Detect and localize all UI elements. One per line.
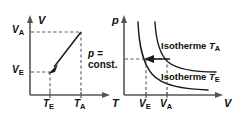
isobaric-condition-line1-text: p = bbox=[88, 48, 103, 59]
left-ytick-va: VA bbox=[12, 25, 24, 36]
isobaric-condition-line2: const. bbox=[88, 59, 117, 70]
right-xtick-va-var: V bbox=[160, 98, 167, 109]
left-x-axis-label: T bbox=[112, 98, 119, 110]
right-y-axis-label: p bbox=[112, 15, 119, 27]
right-panel-graphics bbox=[121, 15, 223, 98]
left-y-axis-arrowhead bbox=[27, 15, 33, 23]
isotherm-te-label-sub: E bbox=[215, 75, 220, 84]
right-y-axis-arrowhead bbox=[121, 15, 127, 23]
left-xtick-ta-label: TA bbox=[74, 99, 86, 110]
right-x-axis-label: V bbox=[224, 98, 231, 110]
left-xtick-te-label: TE bbox=[43, 99, 54, 110]
isobaric-condition-line1: p = bbox=[88, 48, 117, 59]
isotherm-te-label-var: T bbox=[209, 71, 215, 82]
isotherm-te-label-text: Isotherme bbox=[161, 71, 206, 82]
isotherm-te-label: Isotherme TE bbox=[161, 72, 220, 82]
left-ytick-ve-var: V bbox=[12, 64, 19, 75]
left-ytick-va-var: V bbox=[12, 24, 19, 35]
right-x-axis-arrowhead bbox=[215, 92, 223, 98]
right-xtick-va-sub: A bbox=[167, 102, 172, 111]
right-xtick-ve-sub: E bbox=[146, 102, 151, 111]
left-ytick-ve-sub: E bbox=[19, 68, 24, 77]
left-process-arrowhead bbox=[48, 64, 58, 74]
right-xtick-ve-label: VE bbox=[139, 99, 151, 110]
left-y-axis-label: V bbox=[38, 15, 45, 27]
left-ytick-va-sub: A bbox=[19, 28, 24, 37]
left-xtick-ta-sub: A bbox=[80, 102, 85, 111]
right-xtick-va-label: VA bbox=[160, 99, 172, 110]
left-x-axis-arrowhead bbox=[102, 92, 110, 98]
left-xtick-te-sub: E bbox=[49, 102, 54, 111]
isotherm-ta-label: Isotherme TA bbox=[161, 41, 220, 51]
thermodynamics-figure: V T VA VE TE TA p = const. p V VE VA Iso… bbox=[0, 0, 244, 123]
left-process-line bbox=[54, 32, 81, 67]
isotherm-ta-label-text: Isotherme bbox=[161, 40, 206, 51]
isobaric-condition-note: p = const. bbox=[88, 48, 117, 70]
isotherm-ta-label-var: T bbox=[209, 40, 215, 51]
isotherm-ta-label-sub: A bbox=[215, 44, 220, 53]
right-xtick-ve-var: V bbox=[139, 98, 146, 109]
left-ytick-ve: VE bbox=[12, 65, 24, 76]
figure-canvas bbox=[0, 0, 244, 123]
